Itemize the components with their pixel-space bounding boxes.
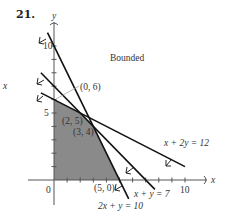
- region-label: Bounded: [110, 53, 145, 63]
- arrow-icon: [37, 78, 44, 85]
- arrow-icon: [166, 160, 171, 166]
- stray-x-label: x: [2, 81, 8, 91]
- y-tick-5: 5: [44, 108, 49, 118]
- arrow-icon: [115, 184, 122, 191]
- line-label-x-plus-2y: x + 2y = 12: [163, 138, 209, 148]
- point-label-3-4: (3, 4): [73, 127, 94, 138]
- point-label-2-5: (2, 5): [62, 116, 83, 127]
- arrow-icon: [37, 95, 43, 102]
- point-label-5-0: (5, 0): [94, 183, 115, 194]
- line-label-2x-plus-y: 2x + y = 10: [98, 201, 143, 211]
- point-label-0-6: (0, 6): [80, 82, 101, 93]
- feasible-region-chart: y x 10 5 0 10 (0, 6) (2, 5) (3, 4) (5, 0…: [0, 0, 229, 218]
- arrow-icon: [126, 167, 133, 174]
- y-tick-10: 10: [43, 41, 53, 51]
- x-tick-10: 10: [180, 185, 190, 195]
- y-axis-label: y: [51, 11, 57, 21]
- line-label-x-plus-y: x + y = 7: [133, 189, 171, 199]
- origin-label: 0: [46, 185, 51, 195]
- x-axis-label: x: [210, 175, 216, 185]
